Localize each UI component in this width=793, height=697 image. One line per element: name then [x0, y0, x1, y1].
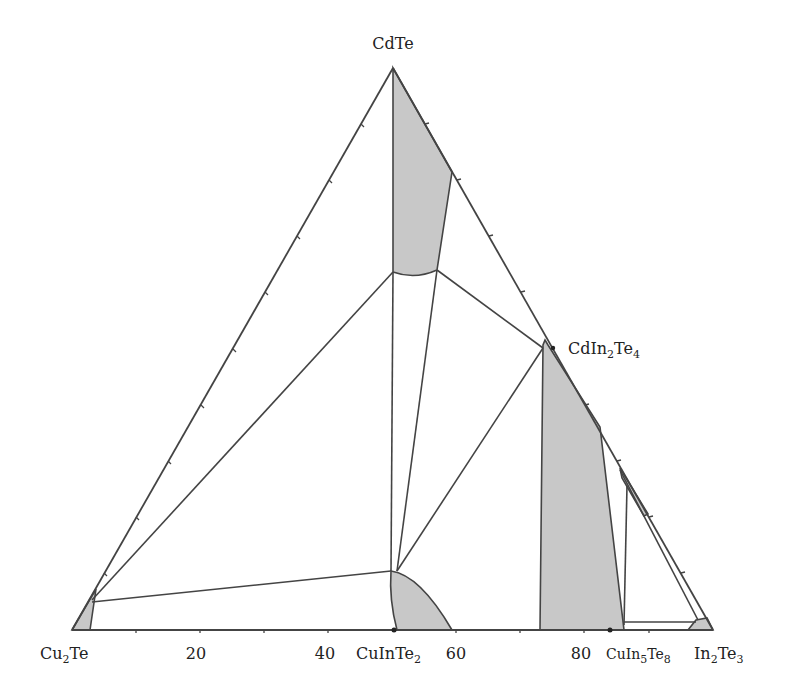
label-cu2te: Cu2Te	[40, 644, 88, 666]
ternary-diagram: CdTe CdIn2Te4 Cu2Te 20 40 CuInTe2 60 80 …	[0, 0, 793, 697]
cdin2te4-region	[540, 340, 624, 630]
tick-label-60: 60	[446, 644, 466, 663]
label-cuinte2: CuInTe2	[356, 644, 421, 666]
tick-label-20: 20	[186, 644, 206, 663]
label-cuin5te8: CuIn5Te8	[606, 646, 671, 666]
cuinte2-marker	[392, 628, 397, 633]
cdin2te4-marker	[551, 346, 555, 350]
tick-label-40: 40	[315, 644, 335, 663]
cuin5te8-marker	[608, 628, 613, 633]
label-cdin2te4: CdIn2Te4	[568, 339, 640, 361]
cdte-solid-solution-region	[393, 68, 452, 276]
tick-label-80: 80	[571, 644, 591, 663]
label-in2te3: In2Te3	[694, 644, 744, 666]
cuinte2-region	[391, 571, 452, 630]
left-edge-ticks	[104, 124, 364, 576]
label-cdte: CdTe	[372, 34, 413, 53]
